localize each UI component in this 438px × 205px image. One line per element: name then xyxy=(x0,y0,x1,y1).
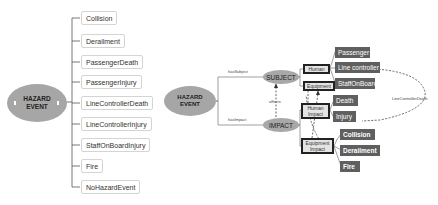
root-port-left xyxy=(14,101,16,105)
root-right-line1: HAZARD xyxy=(177,94,202,101)
derailment-box[interactable]: Derailment xyxy=(340,145,380,156)
leaf-staff-on-board-injury[interactable]: StaffOnBoardInjury xyxy=(81,138,150,152)
staff-on-board-box[interactable]: StaffOnBoard xyxy=(335,78,375,89)
impact-node: IMPACT xyxy=(263,118,299,132)
injury-box[interactable]: Injury xyxy=(333,111,356,122)
leaf-collision[interactable]: Collision xyxy=(81,11,117,25)
leaf-line-controller-death[interactable]: LineControllerDeath xyxy=(81,96,153,110)
subject-node: SUBJECT xyxy=(263,70,299,84)
root-right-line2: EVENT xyxy=(177,101,202,108)
leaf-passenger-injury[interactable]: PassengerInjury xyxy=(81,75,142,89)
human-impact-line2: Impact xyxy=(307,111,323,117)
line-controller-box[interactable]: Line controller xyxy=(335,62,380,73)
collision-box[interactable]: Collision xyxy=(340,129,375,140)
root-label-line1: HAZARD xyxy=(23,95,50,103)
edge-label-line-controller-death: LineControllerDeath xyxy=(392,96,428,101)
edge-label-has-impact: hasImpact xyxy=(228,117,246,122)
hazard-event-root-right: HAZARD EVENT xyxy=(164,86,216,116)
edge-label-affects: affects xyxy=(269,99,281,104)
leaf-line-controller-injury[interactable]: LineControllerInjury xyxy=(81,117,152,131)
human-impact-box[interactable]: Human Impact xyxy=(301,103,330,119)
equipment-subject-box[interactable]: Equipment xyxy=(303,81,335,91)
equipment-impact-line2: Impact xyxy=(306,146,330,152)
equipment-impact-box[interactable]: Equipment Impact xyxy=(301,138,334,154)
fire-box[interactable]: Fire xyxy=(340,161,360,172)
leaf-derailment[interactable]: Derailment xyxy=(81,34,125,48)
human-label: Human xyxy=(308,66,324,72)
root-port-right xyxy=(57,101,59,105)
human-subject-box[interactable]: Human xyxy=(303,64,330,74)
leaf-no-hazard-event[interactable]: NoHazardEvent xyxy=(81,180,140,194)
equipment-label: Equipment xyxy=(307,83,331,89)
edge-label-has-subject: hasSubject xyxy=(228,69,248,74)
passenger-box[interactable]: Passenger xyxy=(335,47,370,58)
root-label-line2: EVENT xyxy=(23,103,50,111)
leaf-passenger-death[interactable]: PassengerDeath xyxy=(81,55,143,69)
death-box[interactable]: Death xyxy=(333,95,358,106)
leaf-fire[interactable]: Fire xyxy=(81,159,103,173)
